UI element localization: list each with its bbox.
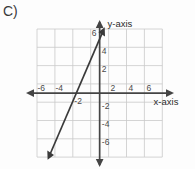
ytick-label-neg6: -6 xyxy=(102,137,110,147)
xtick-label-neg6: -6 xyxy=(38,83,46,93)
xtick-label-2: 2 xyxy=(111,83,116,93)
y-axis-title: y-axis xyxy=(108,18,133,29)
x-axis-title: x-axis xyxy=(154,96,179,107)
ytick-label-2: 2 xyxy=(102,64,107,74)
ytick-label-6: 6 xyxy=(92,28,97,38)
graph-figure: C) xyxy=(0,0,195,169)
xtick-label-4: 4 xyxy=(129,83,134,93)
ytick-label-neg4: -4 xyxy=(102,119,110,129)
xtick-label-neg4: -4 xyxy=(55,83,63,93)
ytick-label-4: 4 xyxy=(102,46,107,56)
xtick-label-6: 6 xyxy=(146,83,151,93)
coordinate-plane: -6 -4 -2 2 4 6 6 4 2 -2 -4 -6 y-axis x-a… xyxy=(0,0,195,169)
ytick-label-neg2: -2 xyxy=(102,101,110,111)
xtick-label-neg2: -2 xyxy=(74,96,82,106)
